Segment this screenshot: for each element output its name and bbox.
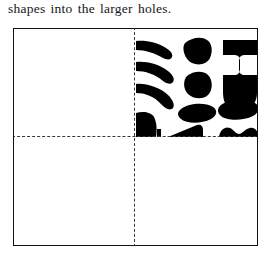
caption-text: shapes into the larger holes. [8, 0, 273, 17]
quadrant-bottom-left [14, 137, 135, 246]
quadrant-bottom-right [135, 137, 258, 246]
shape-hexagon [218, 100, 258, 120]
shape-blob-lozenge [178, 104, 216, 123]
shape-wedge-clipped [136, 112, 157, 137]
shape-crescent-bar-1 [136, 41, 172, 60]
quadrant-diagram-frame [13, 28, 258, 246]
quadrant-divider-horizontal [13, 136, 258, 137]
shape-blob-pentagon-2 [184, 72, 212, 99]
shape-blob-pentagon-1 [183, 38, 211, 65]
quadrant-top-left [14, 29, 135, 137]
quadrant-divider-vertical [134, 28, 135, 246]
shape-crescent-bar-2 [136, 62, 174, 84]
shape-field-top-right [135, 29, 258, 137]
shape-crescent-bar-3 [136, 84, 174, 110]
